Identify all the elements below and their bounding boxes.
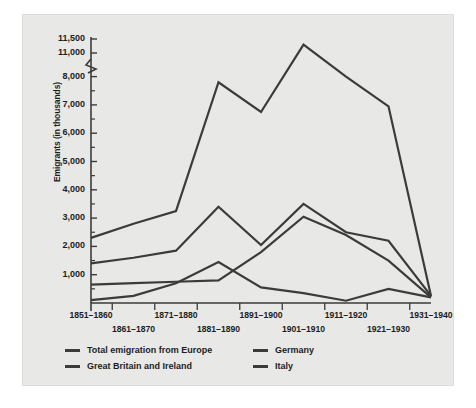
series-line-germany (91, 262, 431, 301)
x-axis-tick-label: 1861–1870 (104, 324, 164, 334)
x-axis-tick-label: 1911–1920 (316, 310, 376, 320)
legend-row: Total emigration from Europe Germany (65, 345, 435, 355)
x-axis-tick-label: 1931–1940 (401, 310, 461, 320)
legend-item-great-britain-and-ireland[interactable]: Great Britain and Ireland (65, 361, 253, 371)
x-axis-tick-label: 1881–1890 (189, 324, 249, 334)
legend-swatch-icon (65, 349, 80, 352)
x-axis-ticks (112, 303, 410, 310)
data-series-group (91, 45, 431, 301)
x-axis-tick-label: 1871–1880 (146, 310, 206, 320)
y-axis-ticks (91, 39, 97, 289)
chart-figure: Emigrants (in thousands) 1,0002,0003,000… (22, 14, 454, 386)
chart-legend: Total emigration from Europe Germany Gre… (65, 345, 435, 377)
series-line-total-emigration-from-europe (91, 45, 431, 296)
legend-label: Italy (275, 361, 293, 371)
legend-item-total-emigration[interactable]: Total emigration from Europe (65, 345, 253, 355)
legend-swatch-icon (65, 365, 80, 368)
x-axis-tick-label: 1891–1900 (231, 310, 291, 320)
legend-row: Great Britain and Ireland Italy (65, 361, 435, 371)
legend-label: Total emigration from Europe (87, 345, 212, 355)
legend-swatch-icon (253, 349, 268, 352)
x-axis-tick-label: 1901–1910 (274, 324, 334, 334)
x-axis-tick-label: 1851–1860 (61, 310, 121, 320)
axes (86, 37, 431, 311)
legend-swatch-icon (253, 365, 268, 368)
legend-label: Great Britain and Ireland (87, 361, 192, 371)
x-axis-tick-label: 1921–1930 (359, 324, 419, 334)
legend-label: Germany (275, 345, 314, 355)
legend-item-germany[interactable]: Germany (253, 345, 314, 355)
legend-item-italy[interactable]: Italy (253, 361, 293, 371)
